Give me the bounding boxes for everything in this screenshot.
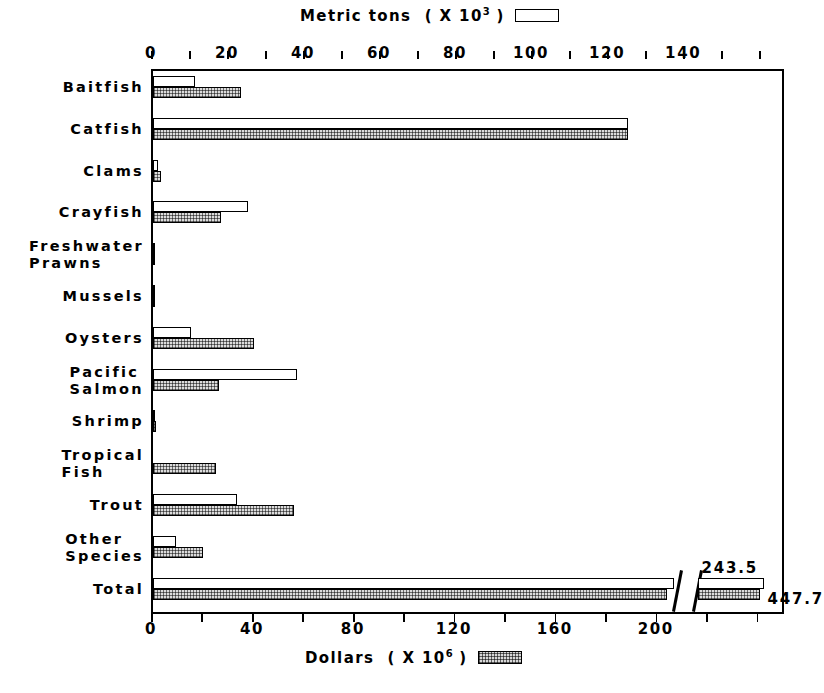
bar-metric-tons — [153, 410, 155, 421]
bar-dollars — [153, 505, 294, 516]
bar-metric-tons — [153, 327, 191, 338]
bar-metric-tons — [153, 369, 297, 380]
axis-tick-label: 80 — [341, 620, 365, 638]
axis-tick-label: 20 — [215, 44, 239, 62]
axis-tick-label: 40 — [240, 620, 264, 638]
category-label: Crayfish — [59, 204, 144, 221]
category-label: Shrimp — [72, 413, 144, 430]
axis-tick — [417, 51, 419, 59]
bar-metric-tons — [153, 494, 237, 505]
bar-dollars — [153, 171, 161, 182]
axis-tick — [645, 51, 647, 59]
bar-dollars — [153, 212, 221, 223]
category-axis-labels: BaitfishCatfishClamsCrayfishFreshwater P… — [0, 69, 148, 614]
axis-tick-label: 80 — [443, 44, 467, 62]
bar-dollars — [153, 589, 667, 600]
axis-tick — [302, 614, 304, 622]
total-metric-tons-value-label: 243.5 — [702, 559, 758, 577]
axis-tick — [757, 614, 759, 622]
bar-metric-tons — [153, 285, 155, 296]
bar-dollars — [153, 380, 219, 391]
bar-metric-tons — [153, 201, 248, 212]
axis-tick — [189, 51, 191, 59]
bar-dollars — [153, 129, 628, 140]
axis-tick-label: 0 — [145, 620, 157, 638]
axis-tick — [504, 614, 506, 622]
bar-dollars — [153, 547, 203, 558]
bar-dollars — [153, 338, 254, 349]
axis-tick-label: 200 — [638, 620, 674, 638]
axis-tick-label: 60 — [367, 44, 391, 62]
category-label: Baitfish — [63, 79, 144, 96]
axis-tick-label: 120 — [589, 44, 625, 62]
bar-metric-tons — [153, 243, 155, 254]
axis-tick — [721, 51, 723, 59]
bar-dollars — [153, 87, 241, 98]
bar-dollars-total-stub — [698, 589, 760, 600]
bar-metric-tons-total-stub — [698, 578, 764, 589]
category-label: Pacific Salmon — [70, 364, 144, 398]
category-label: Catfish — [70, 121, 144, 138]
bar-dollars — [153, 296, 155, 307]
axis-tick-label: 0 — [145, 44, 157, 62]
axis-tick-label: 160 — [537, 620, 573, 638]
category-label: Other Species — [65, 531, 144, 565]
bar-metric-tons — [153, 76, 195, 87]
category-label: Freshwater Prawns — [29, 238, 144, 272]
axis-tick-label: 140 — [665, 44, 701, 62]
axis-tick — [569, 51, 571, 59]
total-dollars-value-label: 447.7 — [768, 590, 824, 608]
bar-metric-tons — [153, 160, 158, 171]
bar-metric-tons — [153, 118, 628, 129]
axis-tick — [706, 614, 708, 622]
legend-stippled-rectangle-swatch-icon — [478, 651, 522, 664]
bar-metric-tons — [153, 536, 176, 547]
axis-tick-label: 100 — [513, 44, 549, 62]
category-label: Tropical Fish — [61, 447, 144, 481]
legend-dollars-label: Dollars ( X 106 ) — [305, 648, 468, 667]
x-axis-bottom-labels: 04080120160200 — [151, 0, 784, 20]
category-label: Oysters — [65, 330, 144, 347]
axis-tick — [341, 51, 343, 59]
category-label: Clams — [83, 163, 144, 180]
bar-dollars — [153, 254, 155, 265]
legend-dollars: Dollars ( X 106 ) — [305, 648, 522, 667]
category-label: Mussels — [62, 288, 144, 305]
axis-tick — [201, 614, 203, 622]
category-label: Trout — [90, 497, 144, 514]
bars-layer: 243.5447.7 — [153, 69, 784, 614]
bar-dollars — [153, 421, 156, 432]
legend-dollars-exponent: 6 — [446, 648, 453, 659]
axis-tick — [605, 614, 607, 622]
bar-dollars — [153, 463, 216, 474]
category-label: Total — [93, 581, 144, 598]
bar-metric-tons — [153, 578, 674, 589]
axis-tick — [403, 614, 405, 622]
axis-tick — [759, 51, 761, 59]
axis-tick — [265, 51, 267, 59]
axis-tick-label: 40 — [291, 44, 315, 62]
axis-tick — [493, 51, 495, 59]
axis-tick-label: 120 — [436, 620, 472, 638]
